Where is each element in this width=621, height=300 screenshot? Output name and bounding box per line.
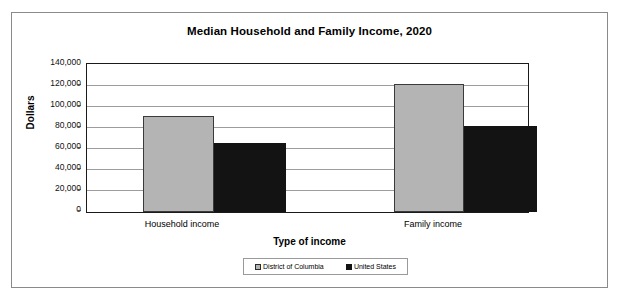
legend-swatch-icon xyxy=(346,264,352,270)
bar-household-united-states[interactable] xyxy=(214,143,286,212)
x-tick-label-household-income: Household income xyxy=(112,219,252,229)
y-tick-mark xyxy=(77,168,81,169)
y-tick-mark xyxy=(77,147,81,148)
y-tick-mark xyxy=(77,126,81,127)
y-tick-label: 140,000 xyxy=(50,58,81,67)
legend-entry-united-states[interactable]: United States xyxy=(346,263,396,271)
legend-label: District of Columbia xyxy=(263,263,324,271)
plot-area xyxy=(86,63,529,213)
y-tick-mark xyxy=(77,210,81,211)
bar-family-district-of-columbia[interactable] xyxy=(394,84,464,212)
legend-label: United States xyxy=(354,263,396,271)
bar-family-united-states[interactable] xyxy=(464,126,537,212)
y-axis-tick-labels: 140,000 120,000 100,000 80,000 60,000 40… xyxy=(12,63,81,211)
x-axis-title: Type of income xyxy=(12,236,607,247)
bar-household-district-of-columbia[interactable] xyxy=(143,116,214,212)
x-tick-label-family-income: Family income xyxy=(363,219,503,229)
chart-figure: Median Household and Family Income, 2020… xyxy=(11,12,608,288)
y-tick-mark xyxy=(77,105,81,106)
chart-title: Median Household and Family Income, 2020 xyxy=(12,25,607,37)
chart-legend: District of Columbia United States xyxy=(243,258,408,275)
legend-swatch-icon xyxy=(255,264,261,270)
y-tick-mark xyxy=(77,84,81,85)
legend-entry-district-of-columbia[interactable]: District of Columbia xyxy=(255,263,324,271)
y-tick-mark xyxy=(77,189,81,190)
